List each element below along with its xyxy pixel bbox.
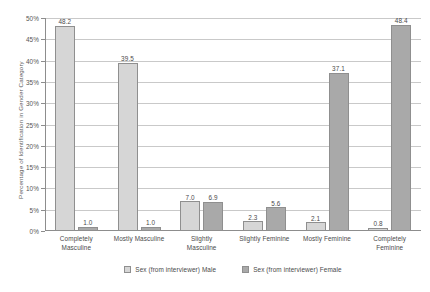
y-axis-tick-label: 35% [1, 78, 39, 85]
y-axis-tick-label: 50% [1, 15, 39, 22]
bar-value-label: 2.1 [311, 215, 320, 222]
bar-slot: 48.2 [55, 18, 75, 231]
bar-group: 7.06.9 [170, 18, 233, 231]
legend-swatch-icon [242, 266, 249, 273]
bar-value-label: 7.0 [186, 194, 195, 201]
bar-slot: 39.5 [118, 18, 138, 231]
bar-groups: 48.21.039.51.07.06.92.35.62.137.10.848.4 [45, 18, 421, 231]
bar-slot: 6.9 [203, 18, 223, 231]
x-axis-label: Slightly Feminine [233, 235, 296, 252]
bar-value-label: 48.2 [58, 18, 71, 25]
x-axis-label: CompletelyFeminine [358, 235, 421, 252]
x-axis-labels: CompletelyMasculineMostly MasculineSligh… [45, 235, 421, 252]
y-axis-ticks: 0%5%10%15%20%25%30%35%40%45%50% [0, 18, 45, 231]
bar[interactable]: 1.0 [141, 227, 161, 231]
x-axis-label: Mostly Feminine [296, 235, 359, 252]
bar-group-bars: 0.848.4 [358, 18, 421, 231]
legend-item[interactable]: Sex (from interviewer) Male [124, 266, 216, 273]
x-axis-label: SlightlyMasculine [170, 235, 233, 252]
y-axis-tick-label: 40% [1, 57, 39, 64]
bar-group: 2.137.1 [296, 18, 359, 231]
y-axis-tick-mark [41, 231, 45, 232]
bar[interactable]: 0.8 [368, 228, 388, 231]
bar[interactable]: 7.0 [180, 201, 200, 231]
bar-slot: 1.0 [78, 18, 98, 231]
bar-value-label: 48.4 [395, 17, 408, 24]
bar-slot: 37.1 [329, 18, 349, 231]
bar-group-bars: 2.137.1 [296, 18, 359, 231]
bar[interactable]: 39.5 [118, 63, 138, 231]
y-axis-tick-label: 10% [1, 185, 39, 192]
bar[interactable]: 48.2 [55, 26, 75, 231]
bar-group-bars: 48.21.0 [45, 18, 108, 231]
bar-value-label: 1.0 [146, 219, 155, 226]
bar-group-bars: 2.35.6 [233, 18, 296, 231]
y-axis-tick-label: 5% [1, 206, 39, 213]
bar-group: 39.51.0 [108, 18, 171, 231]
bar-value-label: 39.5 [121, 55, 134, 62]
bar-chart: Percentage of Identification in Gender C… [0, 0, 430, 292]
bar-slot: 5.6 [266, 18, 286, 231]
x-axis-label: Mostly Masculine [108, 235, 171, 252]
bar-group-bars: 39.51.0 [108, 18, 171, 231]
x-axis-label: CompletelyMasculine [45, 235, 108, 252]
bar[interactable]: 1.0 [78, 227, 98, 231]
y-axis-tick-label: 20% [1, 142, 39, 149]
bar-value-label: 6.9 [209, 194, 218, 201]
bar-slot: 48.4 [391, 18, 411, 231]
bar-slot: 0.8 [368, 18, 388, 231]
bar-group: 48.21.0 [45, 18, 108, 231]
bar[interactable]: 37.1 [329, 73, 349, 231]
bar[interactable]: 48.4 [391, 25, 411, 231]
bar-group-bars: 7.06.9 [170, 18, 233, 231]
legend-label: Sex (from interviewer) Female [253, 266, 341, 273]
bar[interactable]: 6.9 [203, 202, 223, 231]
bar-value-label: 5.6 [271, 200, 280, 207]
bar-slot: 7.0 [180, 18, 200, 231]
bar-group: 2.35.6 [233, 18, 296, 231]
y-axis-tick-label: 30% [1, 100, 39, 107]
bar[interactable]: 2.3 [243, 221, 263, 231]
bar-value-label: 0.8 [374, 220, 383, 227]
legend-label: Sex (from interviewer) Male [135, 266, 216, 273]
bar-slot: 2.1 [306, 18, 326, 231]
bar-group: 0.848.4 [358, 18, 421, 231]
y-axis-tick-label: 45% [1, 36, 39, 43]
bar-value-label: 2.3 [248, 214, 257, 221]
bar-value-label: 37.1 [332, 65, 345, 72]
bar-slot: 1.0 [141, 18, 161, 231]
bar-slot: 2.3 [243, 18, 263, 231]
y-axis-tick-label: 15% [1, 164, 39, 171]
bar-value-label: 1.0 [83, 219, 92, 226]
y-axis-tick-label: 0% [1, 228, 39, 235]
legend: Sex (from interviewer) MaleSex (from int… [45, 266, 421, 273]
bar[interactable]: 2.1 [306, 222, 326, 231]
bar[interactable]: 5.6 [266, 207, 286, 231]
y-axis-tick-label: 25% [1, 121, 39, 128]
legend-swatch-icon [124, 266, 131, 273]
legend-item[interactable]: Sex (from interviewer) Female [242, 266, 341, 273]
